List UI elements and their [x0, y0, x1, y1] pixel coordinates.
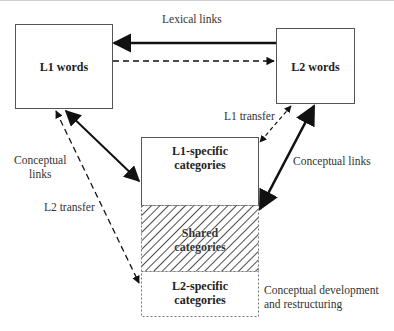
shared-line1: Shared — [141, 226, 259, 240]
conceptual-links-left-arrow — [66, 111, 139, 181]
conceptual-dev-line1: Conceptual development — [264, 283, 379, 297]
l2-specific-line2: categories — [141, 293, 259, 307]
l1-specific-line2: categories — [141, 158, 259, 172]
conceptual-left-line2: links — [14, 167, 66, 181]
l2-specific-line1: L2-specific — [141, 279, 259, 293]
conceptual-dev-line2: and restructuring — [264, 297, 379, 311]
l1-specific-line1: L1-specific — [141, 144, 259, 158]
conceptual-links-left-label: Conceptual links — [14, 153, 66, 181]
l2-transfer-label: L2 transfer — [44, 200, 95, 214]
conceptual-development-label: Conceptual development and restructuring — [264, 283, 379, 311]
conceptual-links-right-label: Conceptual links — [293, 154, 371, 168]
lexical-links-label: Lexical links — [162, 12, 222, 26]
shared-label: Shared categories — [141, 226, 259, 254]
shared-line2: categories — [141, 240, 259, 254]
l1-words-label: L1 words — [15, 60, 113, 74]
l1-specific-label: L1-specific categories — [141, 144, 259, 172]
conceptual-left-line1: Conceptual — [14, 153, 66, 167]
l2-transfer-arrow — [56, 111, 139, 283]
l2-words-label: L2 words — [276, 60, 355, 74]
l1-transfer-label: L1 transfer — [224, 109, 275, 123]
l2-specific-label: L2-specific categories — [141, 279, 259, 307]
